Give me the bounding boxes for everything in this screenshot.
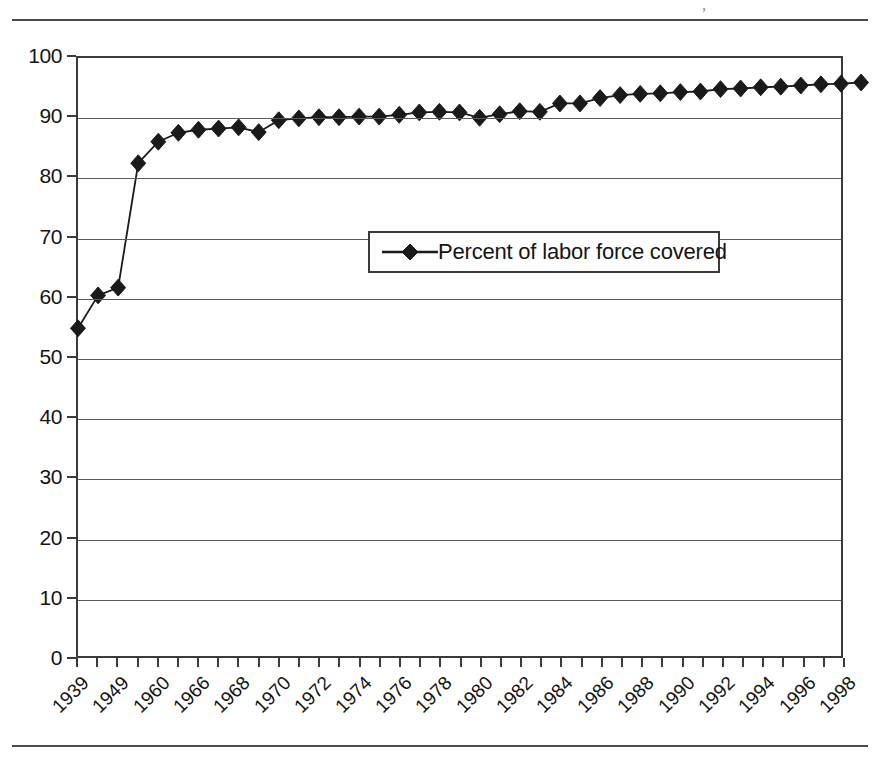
x-tick-mark-26 xyxy=(601,658,603,667)
data-point-marker xyxy=(512,103,527,120)
y-tick-label-70: 70 xyxy=(39,225,62,249)
y-tick-label-40: 40 xyxy=(39,405,62,429)
x-tick-mark-18 xyxy=(439,658,441,667)
x-tick-mark-13 xyxy=(338,658,340,667)
data-point-marker xyxy=(753,79,768,96)
gridline-10 xyxy=(78,600,841,601)
x-tick-mark-15 xyxy=(379,658,381,667)
data-point-marker xyxy=(372,108,387,125)
data-point-marker xyxy=(91,287,106,304)
data-point-marker xyxy=(392,106,407,123)
x-tick-mark-34 xyxy=(762,658,764,667)
y-tick-mark-20 xyxy=(67,537,76,539)
y-tick-label-60: 60 xyxy=(39,285,62,309)
data-point-marker xyxy=(111,279,126,296)
x-tick-mark-37 xyxy=(823,658,825,667)
x-tick-mark-21 xyxy=(500,658,502,667)
data-point-marker xyxy=(673,84,688,101)
x-tick-mark-10 xyxy=(278,658,280,667)
x-tick-mark-0 xyxy=(76,658,78,667)
x-tick-mark-8 xyxy=(237,658,239,667)
data-point-marker xyxy=(492,106,507,123)
gridline-50 xyxy=(78,359,841,360)
chart-legend: Percent of labor force covered xyxy=(368,231,720,273)
x-tick-mark-28 xyxy=(641,658,643,667)
y-tick-mark-80 xyxy=(67,175,76,177)
y-axis: 0102030405060708090100 xyxy=(0,30,76,670)
gridline-30 xyxy=(78,479,841,480)
gridline-60 xyxy=(78,299,841,300)
y-tick-mark-60 xyxy=(67,296,76,298)
data-point-marker xyxy=(211,120,226,137)
y-tick-label-50: 50 xyxy=(39,345,62,369)
data-point-marker xyxy=(573,95,588,112)
data-point-marker xyxy=(332,109,347,126)
x-tick-mark-5 xyxy=(177,658,179,667)
gridline-80 xyxy=(78,178,841,179)
bottom-horizontal-rule xyxy=(12,745,868,747)
gridline-90 xyxy=(78,118,841,119)
x-tick-mark-35 xyxy=(782,658,784,667)
y-tick-mark-10 xyxy=(67,597,76,599)
x-tick-mark-3 xyxy=(137,658,139,667)
data-point-marker xyxy=(773,78,788,95)
data-point-marker xyxy=(813,76,828,93)
x-tick-mark-25 xyxy=(581,658,583,667)
y-tick-mark-40 xyxy=(67,416,76,418)
scan-artifact-mark: , xyxy=(702,0,712,14)
x-tick-mark-9 xyxy=(258,658,260,667)
x-tick-mark-36 xyxy=(803,658,805,667)
x-tick-mark-17 xyxy=(419,658,421,667)
y-tick-mark-0 xyxy=(67,657,76,659)
data-point-marker xyxy=(854,74,869,91)
data-point-marker xyxy=(653,85,668,102)
y-tick-label-0: 0 xyxy=(51,646,62,670)
x-tick-mark-20 xyxy=(480,658,482,667)
data-point-marker xyxy=(793,77,808,94)
data-point-marker xyxy=(552,95,567,112)
data-point-marker xyxy=(171,124,186,141)
y-tick-mark-90 xyxy=(67,115,76,117)
line-chart-figure: 0102030405060708090100 19391949196019661… xyxy=(0,30,880,730)
gridline-20 xyxy=(78,540,841,541)
y-tick-label-20: 20 xyxy=(39,526,62,550)
x-tick-mark-24 xyxy=(560,658,562,667)
y-tick-label-100: 100 xyxy=(28,44,62,68)
x-tick-mark-38 xyxy=(843,658,845,667)
y-tick-label-90: 90 xyxy=(39,104,62,128)
x-tick-mark-33 xyxy=(742,658,744,667)
data-point-marker xyxy=(713,81,728,98)
x-tick-mark-2 xyxy=(116,658,118,667)
gridline-40 xyxy=(78,419,841,420)
y-tick-mark-50 xyxy=(67,356,76,358)
x-tick-mark-14 xyxy=(359,658,361,667)
x-tick-mark-19 xyxy=(460,658,462,667)
data-point-marker xyxy=(693,83,708,100)
x-tick-mark-7 xyxy=(217,658,219,667)
data-point-marker xyxy=(191,121,206,138)
y-tick-mark-70 xyxy=(67,236,76,238)
x-tick-mark-11 xyxy=(298,658,300,667)
y-tick-mark-30 xyxy=(67,476,76,478)
x-tick-mark-6 xyxy=(197,658,199,667)
data-series-percent-of-labor-force-covered xyxy=(78,58,841,656)
data-point-marker xyxy=(593,90,608,107)
x-tick-mark-32 xyxy=(722,658,724,667)
y-tick-label-10: 10 xyxy=(39,586,62,610)
x-tick-mark-22 xyxy=(520,658,522,667)
data-point-marker xyxy=(352,108,367,125)
x-tick-mark-30 xyxy=(682,658,684,667)
y-tick-mark-100 xyxy=(67,55,76,57)
series-markers xyxy=(71,74,869,337)
x-tick-mark-16 xyxy=(399,658,401,667)
x-tick-mark-4 xyxy=(157,658,159,667)
legend-diamond-marker-icon xyxy=(382,242,438,262)
top-horizontal-rule xyxy=(12,19,868,21)
y-tick-label-80: 80 xyxy=(39,164,62,188)
data-point-marker xyxy=(271,112,286,129)
x-tick-mark-1 xyxy=(96,658,98,667)
series-line xyxy=(78,83,861,329)
y-tick-label-30: 30 xyxy=(39,465,62,489)
data-point-marker xyxy=(311,109,326,126)
data-point-marker xyxy=(231,119,246,136)
